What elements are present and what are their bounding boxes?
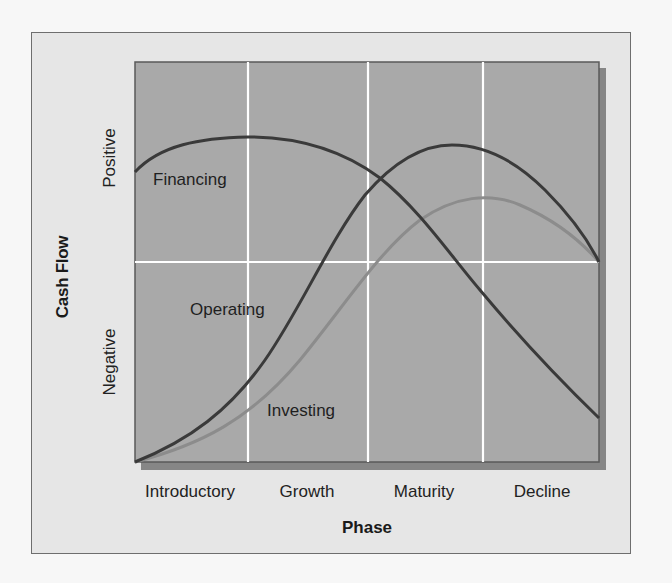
x-tick-introductory: Introductory [145, 482, 235, 502]
series-label-investing: Investing [267, 401, 335, 421]
y-tick-positive: Positive [100, 128, 120, 188]
x-axis-title: Phase [342, 518, 392, 538]
y-tick-negative: Negative [100, 328, 120, 395]
x-tick-growth: Growth [280, 482, 335, 502]
y-axis-title: Cash Flow [53, 236, 73, 318]
chart-plot [0, 0, 672, 583]
series-label-operating: Operating [190, 300, 265, 320]
series-label-financing: Financing [153, 170, 227, 190]
x-tick-decline: Decline [514, 482, 571, 502]
x-tick-maturity: Maturity [394, 482, 454, 502]
